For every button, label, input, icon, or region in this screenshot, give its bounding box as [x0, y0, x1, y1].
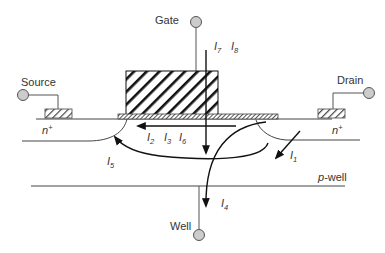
- gate-terminal-circle: [191, 17, 202, 28]
- well-terminal: Well: [170, 186, 205, 241]
- arrow-i1: [276, 131, 300, 158]
- drain-contact: [318, 109, 345, 118]
- mosfet-leakage-diagram: Gate Source Drain: [0, 0, 385, 253]
- arrow-i4: [206, 122, 266, 206]
- gate-label: Gate: [155, 14, 179, 26]
- drain-terminal: Drain: [318, 74, 375, 118]
- well-terminal-circle: [194, 230, 205, 241]
- diagram-canvas: Gate Source Drain: [0, 0, 385, 253]
- source-n-plus-label: n+: [42, 123, 53, 136]
- gate-terminal: Gate: [155, 14, 202, 72]
- drain-n-plus-label: n+: [332, 123, 343, 136]
- label-i1: I1: [290, 149, 297, 164]
- label-i4: I4: [221, 197, 228, 212]
- arrow-i5: [115, 137, 268, 159]
- source-contact: [45, 109, 72, 118]
- drain-label: Drain: [337, 74, 363, 86]
- drain-terminal-circle: [364, 88, 375, 99]
- gate-oxide: [118, 114, 278, 119]
- source-junction: [22, 119, 127, 141]
- label-i3: I3: [164, 131, 172, 146]
- label-i7: I7: [214, 40, 222, 55]
- p-well-label: p-well: [317, 171, 347, 183]
- source-label: Source: [21, 76, 56, 88]
- well-label: Well: [170, 220, 191, 232]
- label-i2: I2: [147, 131, 155, 146]
- label-i8: I8: [231, 40, 239, 55]
- drain-junction: [256, 120, 360, 140]
- label-i6: I6: [179, 131, 187, 146]
- label-i5: I5: [107, 155, 115, 170]
- source-terminal: Source: [18, 76, 73, 118]
- source-terminal-circle: [18, 90, 29, 101]
- gate-poly: [126, 71, 218, 115]
